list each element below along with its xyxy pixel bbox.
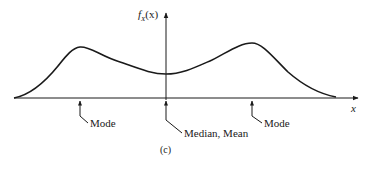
mode-right-label: Mode (264, 117, 290, 129)
figure-caption: (c) (160, 144, 171, 155)
y-axis-label: fX(x) (138, 8, 158, 23)
x-axis-label: x (351, 102, 356, 114)
mode-left-label: Mode (90, 117, 116, 129)
median-mean-pointer (166, 101, 182, 133)
mode-left-pointer (80, 101, 88, 123)
median-mean-label: Median, Mean (184, 127, 248, 139)
density-curve (14, 43, 336, 98)
mode-right-pointer (252, 101, 262, 123)
density-plot (0, 0, 374, 172)
